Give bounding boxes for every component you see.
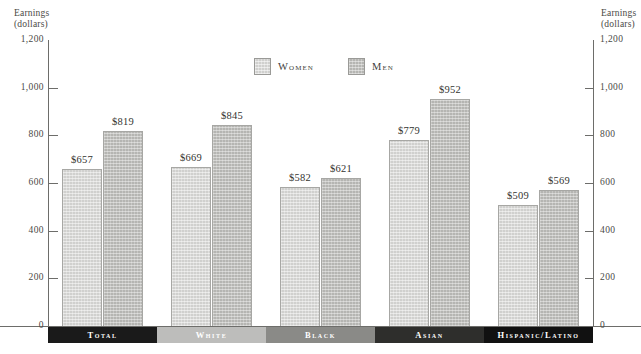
legend-label-men: Men	[372, 61, 394, 72]
bar-total-women[interactable]	[62, 169, 102, 326]
category-band-hispanic-latino: Hispanic/Latino	[484, 327, 593, 343]
bar-white-men[interactable]	[212, 125, 252, 326]
category-label-asian: Asian	[415, 330, 443, 340]
tick-label-left-800: 800	[2, 129, 44, 139]
earnings-bar-chart: Earnings (dollars) Earnings (dollars) 1,…	[0, 0, 641, 354]
tick-label-left-200: 200	[2, 272, 44, 282]
category-label-white: White	[196, 330, 228, 340]
tick-label-right-400: 400	[600, 225, 641, 235]
tick-mark-left-1000	[49, 88, 58, 89]
tick-label-left-600: 600	[2, 177, 44, 187]
legend-item-men[interactable]: Men	[348, 58, 394, 75]
category-band-asian: Asian	[375, 327, 484, 343]
bar-white-women[interactable]	[171, 167, 211, 326]
category-label-hispanic-latino: Hispanic/Latino	[497, 330, 579, 340]
tick-label-left-1000: 1,000	[2, 82, 44, 92]
tick-label-left-400: 400	[2, 225, 44, 235]
bar-total-men[interactable]	[103, 131, 143, 326]
tick-mark-left-800	[49, 135, 58, 136]
tick-mark-right-1000	[585, 88, 594, 89]
bar-value-label-asian-men: $952	[422, 84, 478, 95]
tick-label-right-600: 600	[600, 177, 641, 187]
tick-label-left-0: 0	[2, 320, 44, 330]
bar-value-label-total-women: $657	[54, 154, 110, 165]
tick-mark-left-200	[49, 278, 58, 279]
tick-label-right-200: 200	[600, 272, 641, 282]
tick-label-right-1000: 1,000	[600, 82, 641, 92]
bar-asian-women[interactable]	[389, 140, 429, 326]
bar-value-label-white-women: $669	[163, 152, 219, 163]
tick-label-right-0: 0	[600, 320, 641, 330]
legend-swatch-men-icon	[348, 58, 365, 75]
tick-mark-left-400	[49, 231, 58, 232]
category-band-total: Total	[48, 327, 157, 343]
legend-label-women: Women	[278, 61, 314, 72]
bar-asian-men[interactable]	[430, 99, 470, 326]
tick-label-right-800: 800	[600, 129, 641, 139]
left-axis-title: Earnings (dollars)	[14, 8, 49, 29]
tick-label-left-1200: 1,200	[2, 34, 44, 44]
tick-mark-right-800	[585, 135, 594, 136]
legend-swatch-women-icon	[254, 58, 271, 75]
legend: Women Men	[254, 58, 394, 75]
category-band-white: White	[157, 327, 266, 343]
tick-label-right-1200: 1,200	[600, 34, 641, 44]
bar-value-label-hispanic-latino-women: $509	[490, 190, 546, 201]
bar-hispanic-latino-men[interactable]	[539, 190, 579, 326]
tick-mark-right-400	[585, 231, 594, 232]
right-axis-title: Earnings (dollars)	[601, 8, 636, 29]
bar-value-label-asian-women: $779	[381, 125, 437, 136]
bar-black-women[interactable]	[280, 187, 320, 326]
tick-mark-right-200	[585, 278, 594, 279]
bar-value-label-white-men: $845	[204, 110, 260, 121]
category-label-black: Black	[305, 330, 336, 340]
tick-mark-left-600	[49, 183, 58, 184]
bar-hispanic-latino-women[interactable]	[498, 205, 538, 326]
bar-value-label-hispanic-latino-men: $569	[531, 175, 587, 186]
category-band-black: Black	[266, 327, 375, 343]
bar-black-men[interactable]	[321, 178, 361, 326]
legend-item-women[interactable]: Women	[254, 58, 314, 75]
bar-value-label-black-men: $621	[313, 163, 369, 174]
category-label-total: Total	[87, 330, 117, 340]
bar-value-label-total-men: $819	[95, 116, 151, 127]
